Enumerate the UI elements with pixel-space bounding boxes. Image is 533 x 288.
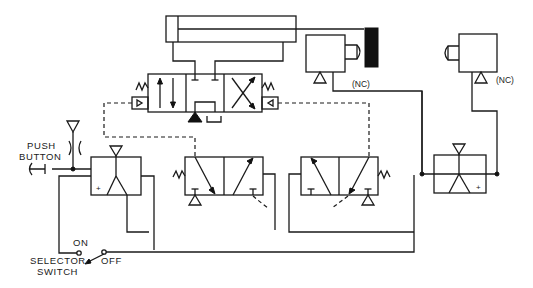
push-button-icon <box>29 163 45 175</box>
pilot-line-right <box>278 103 369 157</box>
limit-valve-right-nc-label: (NC) <box>496 75 514 85</box>
selector-switch[interactable]: ON OFF SELECTOR SWITCH <box>30 175 414 277</box>
push-button-label-1: PUSH <box>27 140 56 151</box>
exhaust-triangle-icon <box>314 72 326 83</box>
supply-triangle-icon <box>110 146 122 156</box>
push-button: PUSH BUTTON <box>19 121 91 175</box>
supply-triangle-icon <box>453 144 465 154</box>
relay-left-plus: + <box>96 184 101 193</box>
exhaust-triangle-icon <box>475 72 487 83</box>
pilot-valve-left <box>173 157 275 230</box>
exhaust-triangle-icon <box>362 195 374 205</box>
pneumatic-circuit-diagram: (NC) (NC) <box>0 0 533 288</box>
selector-off-contact <box>102 250 106 254</box>
relay-right-plus: + <box>476 183 481 192</box>
limit-valve-left-nc-label: (NC) <box>352 79 370 89</box>
limit-valve-left: (NC) <box>306 35 422 175</box>
exhaust-icon <box>207 116 221 122</box>
spring-icon <box>378 171 390 178</box>
relay-right: + <box>420 144 499 193</box>
pilot-line-left <box>104 103 195 157</box>
push-button-label-2: BUTTON <box>19 151 61 162</box>
limit-valve-right: (NC) <box>445 34 514 175</box>
selector-on-label: ON <box>73 237 88 248</box>
spring-icon <box>262 83 274 90</box>
main-valve <box>132 74 278 122</box>
relay-left: + <box>91 146 149 232</box>
supply-triangle-icon <box>67 121 79 132</box>
pilot-valve-right <box>289 157 414 232</box>
spring-icon <box>136 83 148 90</box>
selector-label-1: SELECTOR <box>30 255 86 266</box>
spring-icon <box>173 171 185 178</box>
pressure-source-icon <box>188 112 202 122</box>
selector-off-label: OFF <box>101 255 122 266</box>
orifice-icon <box>69 141 81 155</box>
selector-label-2: SWITCH <box>37 266 78 277</box>
exhaust-triangle-icon <box>189 195 201 205</box>
cam-block <box>365 28 378 67</box>
